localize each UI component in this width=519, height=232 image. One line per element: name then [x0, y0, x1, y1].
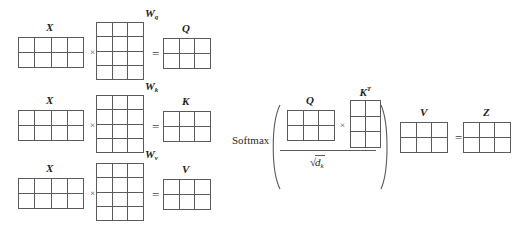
- matrix-cell: [319, 126, 335, 141]
- matrix-cell: [417, 123, 433, 138]
- matrix-cell: [464, 123, 480, 138]
- label-text: V: [420, 106, 427, 118]
- matrix-cell: [495, 123, 511, 138]
- fraction-bar: [280, 150, 376, 151]
- matrix-cell: [366, 101, 381, 117]
- radicand-subscript: k: [321, 162, 324, 170]
- matrix-cell: [68, 194, 84, 209]
- matrix-cell: [19, 126, 35, 141]
- sqrt-dk: √dk: [310, 157, 325, 170]
- label-text: Z: [483, 106, 490, 118]
- matrix-cell: [164, 195, 180, 210]
- matrix-cell: [113, 52, 129, 66]
- label-text: K: [360, 86, 367, 98]
- matrix-cell: [97, 193, 113, 207]
- key-row-output-matrix: [163, 111, 211, 142]
- matrix-cell: [195, 39, 211, 54]
- matrix-cell: [97, 96, 113, 110]
- matrix-cell: [164, 127, 180, 142]
- matrix-cell: [113, 110, 129, 124]
- attention-times-operator: ×: [340, 121, 345, 130]
- matrix-cell: [128, 193, 144, 207]
- value-row-times-operator: ×: [90, 189, 95, 198]
- label-text: X: [46, 162, 53, 174]
- matrix-cell: [164, 112, 180, 127]
- label-subscript: v: [155, 154, 158, 162]
- matrix-cell: [113, 178, 129, 192]
- label-subscript: q: [155, 13, 159, 21]
- label-text: X: [46, 21, 53, 33]
- matrix-cell: [19, 53, 35, 68]
- matrix-cell: [68, 126, 84, 141]
- matrix-cell: [128, 178, 144, 192]
- matrix-cell: [97, 52, 113, 66]
- label-text: W: [145, 80, 155, 92]
- matrix-cell: [113, 207, 129, 221]
- value-row-output-matrix: [163, 179, 211, 210]
- matrix-cell: [180, 127, 196, 142]
- query-row-weight-matrix: [96, 22, 144, 80]
- matrix-cell: [128, 110, 144, 124]
- query-row-times-operator: ×: [90, 48, 95, 57]
- matrix-cell: [97, 125, 113, 139]
- matrix-cell: [401, 138, 417, 153]
- key-row-equals-operator: =: [152, 120, 159, 133]
- query-row-weight-label: Wq: [145, 8, 158, 21]
- label-superscript: T: [367, 85, 371, 93]
- matrix-cell: [180, 112, 196, 127]
- matrix-cell: [52, 126, 68, 141]
- matrix-cell: [180, 39, 196, 54]
- matrix-cell: [288, 111, 304, 126]
- label-subscript: k: [155, 86, 159, 94]
- query-row-equals-operator: =: [152, 47, 159, 60]
- matrix-cell: [128, 23, 144, 37]
- value-row-input-label: X: [46, 163, 53, 174]
- value-row-equals-operator: =: [152, 188, 159, 201]
- attention-z-label: Z: [483, 107, 490, 118]
- matrix-cell: [19, 179, 35, 194]
- matrix-cell: [113, 96, 129, 110]
- matrix-cell: [97, 37, 113, 51]
- matrix-cell: [68, 38, 84, 53]
- matrix-cell: [35, 194, 51, 209]
- matrix-cell: [366, 132, 381, 148]
- matrix-cell: [52, 111, 68, 126]
- matrix-cell: [164, 54, 180, 69]
- value-row-weight-label: Wv: [145, 149, 158, 162]
- matrix-cell: [68, 111, 84, 126]
- matrix-cell: [19, 194, 35, 209]
- query-row-input-matrix: [18, 37, 84, 68]
- matrix-cell: [128, 66, 144, 80]
- matrix-cell: [113, 37, 129, 51]
- label-text: W: [145, 7, 155, 19]
- matrix-cell: [128, 96, 144, 110]
- value-row-output-label: V: [182, 164, 189, 175]
- label-text: W: [145, 148, 155, 160]
- matrix-cell: [319, 111, 335, 126]
- matrix-cell: [351, 132, 366, 148]
- matrix-cell: [35, 126, 51, 141]
- key-row-weight-label: Wk: [145, 81, 158, 94]
- matrix-cell: [52, 53, 68, 68]
- matrix-cell: [113, 23, 129, 37]
- matrix-cell: [35, 38, 51, 53]
- attention-v-label: V: [420, 107, 427, 118]
- label-text: Q: [182, 22, 190, 34]
- matrix-cell: [128, 125, 144, 139]
- matrix-cell: [128, 164, 144, 178]
- matrix-cell: [52, 179, 68, 194]
- matrix-cell: [97, 66, 113, 80]
- matrix-cell: [128, 139, 144, 153]
- attention-q-label: Q: [306, 95, 314, 106]
- matrix-cell: [52, 38, 68, 53]
- matrix-cell: [304, 126, 320, 141]
- matrix-cell: [113, 125, 129, 139]
- matrix-cell: [195, 180, 211, 195]
- matrix-cell: [97, 139, 113, 153]
- matrix-cell: [351, 101, 366, 117]
- label-text: K: [182, 95, 189, 107]
- matrix-cell: [417, 138, 433, 153]
- matrix-cell: [288, 126, 304, 141]
- matrix-cell: [195, 112, 211, 127]
- matrix-cell: [180, 180, 196, 195]
